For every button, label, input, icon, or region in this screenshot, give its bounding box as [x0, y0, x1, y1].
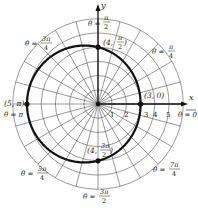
y-axis-label: y: [100, 1, 106, 10]
point-label-5-pi: (5, π): [4, 99, 24, 108]
angle-label-7pi-4: θ = 7π 4: [153, 161, 180, 178]
svg-text:7π: 7π: [170, 161, 179, 169]
data-point: [95, 45, 100, 50]
polar-graph: y x 1 2 3 4 5 θ = 0 θ = π θ = π 2 θ = π …: [0, 0, 198, 208]
x-axis-label: x: [189, 93, 194, 102]
svg-text:4: 4: [44, 44, 48, 52]
svg-text:3π: 3π: [101, 142, 110, 150]
grid-spoke: [38, 104, 98, 164]
svg-text:5π: 5π: [38, 165, 47, 173]
svg-text:4: 4: [40, 174, 44, 182]
tick-5: 5: [166, 111, 170, 119]
svg-text:π: π: [168, 43, 174, 51]
svg-text:2: 2: [102, 197, 106, 205]
angle-label-0: θ = 0: [178, 111, 198, 119]
svg-text:(4,: (4,: [103, 38, 113, 47]
grid-spoke: [98, 104, 141, 178]
point-label-4-pi-2: (4, π 2 ): [103, 34, 127, 51]
svg-text:θ =: θ =: [153, 166, 165, 174]
svg-text:θ =: θ =: [88, 20, 100, 28]
grid-spoke: [38, 44, 98, 104]
svg-text:θ =: θ =: [25, 40, 37, 48]
y-axis-arrow-icon: [96, 4, 101, 11]
tick-4: 4: [153, 111, 158, 119]
angle-label-pi: θ = π: [4, 111, 24, 119]
svg-text:2: 2: [102, 151, 106, 159]
tick-3: 3: [144, 111, 148, 119]
origin-dot: [96, 102, 100, 106]
svg-text:2: 2: [104, 23, 108, 31]
svg-text:θ =: θ =: [83, 193, 95, 201]
tick-2: 2: [124, 111, 128, 119]
svg-text:π: π: [103, 14, 109, 22]
angle-label-pi-2: θ = π 2: [88, 14, 110, 31]
svg-text:): ): [123, 38, 127, 47]
svg-text:θ =: θ =: [21, 170, 33, 178]
svg-text:3π: 3π: [100, 188, 109, 196]
svg-text:π: π: [117, 34, 123, 42]
angle-label-5pi-4: θ = 5π 4: [21, 165, 48, 182]
angle-label-3pi-2: θ = 3π 2: [83, 188, 110, 205]
x-axis-arrow-icon: [181, 102, 188, 107]
point-label-3-0: (3, 0): [144, 91, 164, 100]
data-point: [138, 101, 143, 106]
tick-1: 1: [110, 111, 114, 119]
svg-text:): ): [109, 146, 113, 155]
svg-text:3π: 3π: [42, 35, 51, 43]
data-point: [95, 158, 100, 163]
svg-text:θ =: θ =: [152, 48, 164, 56]
angle-label-3pi-4: θ = 3π 4: [25, 35, 52, 52]
grid-spoke: [55, 30, 98, 104]
svg-text:4: 4: [169, 52, 173, 60]
angle-label-pi-4: θ = π 4: [152, 43, 175, 60]
svg-text:(4,: (4,: [87, 146, 97, 155]
grid-spoke: [24, 61, 98, 104]
grid-spoke: [55, 104, 98, 178]
data-point: [24, 101, 29, 106]
grid-spoke: [24, 104, 98, 147]
svg-text:4: 4: [172, 170, 176, 178]
svg-text:2: 2: [118, 43, 122, 51]
